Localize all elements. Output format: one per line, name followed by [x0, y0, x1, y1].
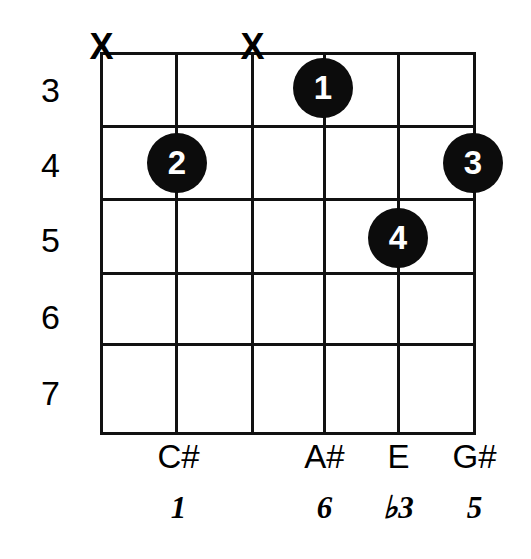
- note-name-string-2: C#: [134, 440, 224, 473]
- finger-dot-3: 3: [443, 133, 503, 193]
- fret-number-3: 3: [14, 73, 60, 107]
- fret-number-5: 5: [14, 223, 60, 257]
- mute-marker-string-1: X: [85, 30, 119, 64]
- note-name-string-6: G#: [430, 440, 520, 473]
- finger-dot-1: 1: [293, 58, 353, 118]
- interval-degree-string-2: 1: [134, 492, 224, 523]
- fret-number-4: 4: [14, 148, 60, 182]
- mute-marker-string-3: X: [236, 30, 270, 64]
- interval-degree-string-6: 5: [430, 492, 520, 523]
- chord-diagram: 3 4 5 6 7 X X 1 2 3 4 C# A# E G# 1 6 ♭3 …: [0, 0, 531, 559]
- fret-line-5: [100, 432, 476, 435]
- fret-line-0: [100, 52, 476, 55]
- fret-line-2: [100, 198, 476, 201]
- finger-dot-4: 4: [368, 208, 428, 268]
- string-line-1: [100, 52, 103, 435]
- fret-number-7: 7: [14, 376, 60, 410]
- fret-number-6: 6: [14, 300, 60, 334]
- finger-dot-2: 2: [147, 133, 207, 193]
- fret-line-1: [100, 125, 476, 128]
- fret-line-4: [100, 343, 476, 346]
- fret-line-3: [100, 272, 476, 275]
- string-line-6: [473, 52, 476, 435]
- string-line-2: [175, 52, 178, 435]
- string-line-3: [251, 52, 254, 435]
- fretboard-grid: [0, 0, 531, 559]
